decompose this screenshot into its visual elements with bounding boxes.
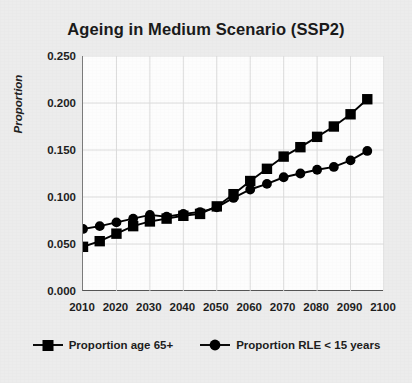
data-point-marker — [345, 109, 355, 119]
data-point-marker — [178, 209, 188, 219]
data-point-marker — [312, 132, 322, 142]
data-point-marker — [278, 151, 288, 161]
legend-entry-2[interactable]: Proportion RLE < 15 years — [199, 338, 380, 352]
x-tick-label: 2100 — [370, 301, 396, 313]
data-point-marker — [346, 155, 356, 165]
data-point-marker — [112, 217, 122, 227]
x-tick-label: 2060 — [236, 301, 262, 313]
x-tick-label: 2050 — [203, 301, 229, 313]
data-point-marker — [145, 210, 155, 220]
data-point-marker — [329, 121, 339, 131]
legend-label: Proportion RLE < 15 years — [236, 339, 380, 351]
data-point-marker — [295, 142, 305, 152]
x-tick-label: 2080 — [303, 301, 329, 313]
data-point-marker — [295, 169, 305, 179]
plot-area — [82, 56, 383, 291]
chart-legend: Proportion age 65+Proportion RLE < 15 ye… — [0, 338, 412, 352]
y-tick-label: 0.000 — [20, 285, 76, 297]
data-point-marker — [362, 94, 372, 104]
plot-wrapper — [82, 56, 383, 291]
legend-square-marker-icon — [32, 338, 64, 352]
y-tick-label: 0.050 — [20, 238, 76, 250]
legend-label: Proportion age 65+ — [69, 339, 173, 351]
y-tick-label: 0.250 — [20, 50, 76, 62]
data-point-marker — [245, 185, 255, 195]
gridlines — [83, 56, 384, 291]
y-tick-label: 0.100 — [20, 191, 76, 203]
data-point-marker — [128, 214, 138, 224]
x-tick-label: 2020 — [103, 301, 129, 313]
axis-ticks — [83, 56, 384, 291]
chart-title: Ageing in Medium Scenario (SSP2) — [0, 20, 412, 39]
data-point-marker — [162, 212, 172, 222]
x-tick-label: 2070 — [270, 301, 296, 313]
data-point-marker — [111, 228, 121, 238]
x-tick-label: 2040 — [170, 301, 196, 313]
data-point-marker — [312, 165, 322, 175]
data-point-marker — [329, 162, 339, 172]
x-tick-label: 2090 — [337, 301, 363, 313]
data-point-marker — [262, 179, 272, 189]
series-canvas — [83, 56, 384, 291]
x-tick-label: 2010 — [69, 301, 95, 313]
series-1 — [83, 94, 372, 252]
data-point-marker — [279, 172, 289, 182]
data-point-marker — [212, 202, 222, 212]
data-point-marker — [362, 146, 372, 156]
data-point-marker — [195, 207, 205, 217]
data-point-marker — [95, 236, 105, 246]
data-point-marker — [95, 221, 105, 231]
data-point-marker — [83, 242, 88, 252]
data-point-marker — [262, 164, 272, 174]
legend-entry-1[interactable]: Proportion age 65+ — [32, 338, 173, 352]
y-tick-label: 0.200 — [20, 97, 76, 109]
series-2 — [83, 146, 372, 234]
data-point-marker — [229, 193, 239, 203]
legend-circle-marker-icon — [199, 338, 231, 352]
y-tick-label: 0.150 — [20, 144, 76, 156]
chart-figure: Ageing in Medium Scenario (SSP2) Proport… — [0, 0, 412, 383]
data-point-marker — [83, 224, 88, 234]
x-tick-label: 2030 — [136, 301, 162, 313]
